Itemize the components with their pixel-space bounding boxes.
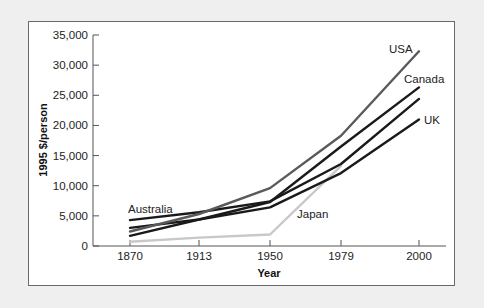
series-line-australia — [130, 99, 419, 220]
y-axis-title: 1995 $/person — [37, 103, 49, 177]
y-tick-label: 35,000 — [53, 29, 88, 41]
x-tick-label: 1950 — [257, 250, 283, 262]
series-line-canada — [130, 87, 419, 235]
y-tick-label: 30,000 — [53, 59, 88, 71]
y-tick-label: 10,000 — [53, 180, 88, 192]
x-tick-label: 1979 — [328, 250, 354, 262]
y-tick-label: 0 — [82, 240, 88, 252]
label-australia: Australia — [128, 203, 173, 215]
x-tick-label: 1913 — [186, 250, 212, 262]
label-uk: UK — [424, 114, 440, 126]
series-lines — [130, 51, 419, 242]
y-tick-label: 20,000 — [53, 119, 88, 131]
x-tick-label: 2000 — [406, 250, 432, 262]
y-tick-label: 5,000 — [59, 210, 88, 222]
tick-labels: 05,00010,00015,00020,00025,00030,00035,0… — [53, 29, 432, 262]
label-usa: USA — [389, 43, 413, 55]
y-tick-label: 25,000 — [53, 89, 88, 101]
line-chart: 05,00010,00015,00020,00025,00030,00035,0… — [0, 0, 484, 308]
x-tick-label: 1870 — [117, 250, 143, 262]
x-axis-title: Year — [257, 267, 281, 279]
label-japan: Japan — [297, 208, 328, 220]
label-canada: Canada — [404, 73, 445, 85]
y-tick-label: 15,000 — [53, 150, 88, 162]
